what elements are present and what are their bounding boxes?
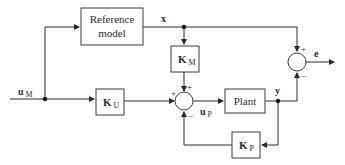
reference-model-label-line2: model xyxy=(98,27,126,39)
up-sub: P xyxy=(208,110,213,119)
up-label: uP xyxy=(200,106,213,119)
km-main: K xyxy=(178,53,187,65)
kp-sub: P xyxy=(250,144,255,153)
input-sum-sign-top: + xyxy=(187,82,192,92)
kp-main: K xyxy=(239,139,248,151)
y-signal-label: y xyxy=(275,85,280,96)
ku-sub: U xyxy=(114,101,120,110)
error-summing-junction xyxy=(288,53,306,71)
reference-model-label-line1: Reference xyxy=(90,13,135,25)
error-sum-sign-bottom: − xyxy=(301,71,306,81)
y-to-error-sum-line xyxy=(278,73,297,101)
plant-label: Plant xyxy=(234,95,257,107)
km-sub: M xyxy=(189,58,196,67)
error-sum-sign-top: + xyxy=(301,44,306,54)
up-main: u xyxy=(200,106,206,117)
um-sub: M xyxy=(26,90,33,99)
input-sum-sign-left: + xyxy=(171,88,176,98)
um-main: u xyxy=(18,86,24,97)
um-label: uM xyxy=(18,86,33,99)
um-to-reference-line xyxy=(45,27,79,99)
x-signal-label: x xyxy=(161,13,166,24)
input-sum-sign-bottom: − xyxy=(188,111,193,121)
block-diagram: Reference model x KM KU + + − uP Plant y… xyxy=(0,0,345,165)
x-signal-line xyxy=(143,27,297,51)
ku-main: K xyxy=(103,96,112,108)
input-summing-junction xyxy=(175,92,193,110)
e-signal-label: e xyxy=(314,48,319,59)
